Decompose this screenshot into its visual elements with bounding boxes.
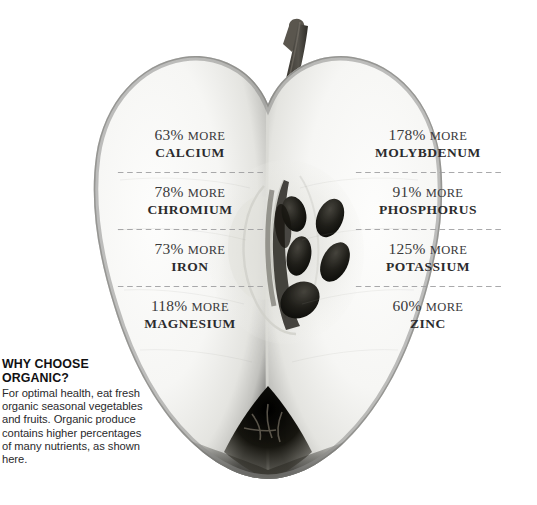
nutrient-amount: 91% MORE bbox=[393, 184, 464, 200]
dotted-divider bbox=[116, 228, 264, 231]
nutrient-column-left: 63% MORE CALCIUM 78% MORE CHROMIUM 73% M… bbox=[110, 118, 270, 340]
nutrient-amount: 60% MORE bbox=[393, 298, 464, 314]
dotted-divider bbox=[116, 171, 264, 174]
nutrient-entry-iron: 73% MORE IRON bbox=[110, 232, 270, 283]
nutrient-amount: 73% MORE bbox=[155, 241, 226, 257]
nutrient-name: POTASSIUM bbox=[386, 260, 470, 274]
nutrient-name: PHOSPHORUS bbox=[379, 203, 477, 217]
dotted-divider bbox=[354, 285, 502, 288]
caption-block: WHY CHOOSE ORGANIC? For optimal health, … bbox=[2, 358, 152, 467]
nutrient-entry-phosphorus: 91% MORE PHOSPHORUS bbox=[348, 175, 508, 226]
caption-heading: WHY CHOOSE ORGANIC? bbox=[2, 358, 152, 386]
dotted-divider bbox=[116, 285, 264, 288]
caption-body: For optimal health, eat fresh organic se… bbox=[2, 387, 152, 467]
nutrient-entry-calcium: 63% MORE CALCIUM bbox=[110, 118, 270, 169]
nutrient-name: CALCIUM bbox=[155, 146, 225, 160]
nutrient-entry-magnesium: 118% MORE MAGNESIUM bbox=[110, 289, 270, 340]
infographic-canvas: 63% MORE CALCIUM 78% MORE CHROMIUM 73% M… bbox=[0, 0, 537, 505]
dotted-divider bbox=[354, 171, 502, 174]
nutrient-entry-molybdenum: 178% MORE MOLYBDENUM bbox=[348, 118, 508, 169]
dotted-divider bbox=[354, 228, 502, 231]
nutrient-amount: 118% MORE bbox=[151, 298, 229, 314]
nutrient-entry-chromium: 78% MORE CHROMIUM bbox=[110, 175, 270, 226]
nutrient-column-right: 178% MORE MOLYBDENUM 91% MORE PHOSPHORUS… bbox=[348, 118, 508, 340]
nutrient-amount: 78% MORE bbox=[155, 184, 226, 200]
nutrient-entry-potassium: 125% MORE POTASSIUM bbox=[348, 232, 508, 283]
nutrient-name: MAGNESIUM bbox=[144, 317, 236, 331]
nutrient-name: ZINC bbox=[410, 317, 446, 331]
nutrient-name: MOLYBDENUM bbox=[375, 146, 481, 160]
nutrient-name: IRON bbox=[171, 260, 208, 274]
nutrient-amount: 178% MORE bbox=[389, 127, 468, 143]
nutrient-amount: 125% MORE bbox=[389, 241, 468, 257]
nutrient-entry-zinc: 60% MORE ZINC bbox=[348, 289, 508, 340]
nutrient-name: CHROMIUM bbox=[148, 203, 233, 217]
nutrient-amount: 63% MORE bbox=[155, 127, 226, 143]
